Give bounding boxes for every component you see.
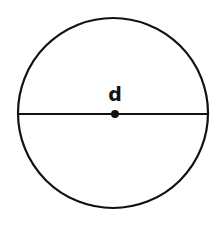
circle-diagram: d	[0, 0, 221, 225]
diameter-label: d	[108, 83, 122, 105]
center-point	[111, 110, 119, 118]
